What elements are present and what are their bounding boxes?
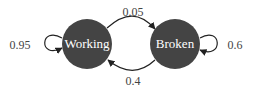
edge-label-broken-to-working: 0.4 xyxy=(126,74,141,88)
node-broken-label: Broken xyxy=(156,36,195,51)
edge-label-working-self: 0.95 xyxy=(10,38,31,52)
edge-working-self xyxy=(45,35,62,50)
edge-label-broken-self: 0.6 xyxy=(228,38,243,52)
edge-broken-self xyxy=(200,35,217,52)
edge-broken-to-working xyxy=(108,60,155,71)
node-working-label: Working xyxy=(64,36,110,51)
edge-label-working-to-broken: 0.05 xyxy=(123,5,144,19)
markov-chain-diagram: Working Broken 0.95 0.05 0.4 0.6 xyxy=(0,0,257,94)
